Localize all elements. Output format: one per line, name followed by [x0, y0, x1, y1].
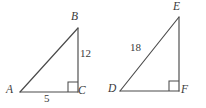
vertex-label-d: D: [108, 83, 116, 95]
triangles-svg: [0, 0, 206, 108]
side-length-label-ac: 5: [44, 93, 50, 104]
segment-de: [120, 17, 179, 91]
triangle-abc: [20, 28, 78, 92]
right-angle-mark-f: [169, 81, 179, 91]
vertex-label-a: A: [6, 84, 13, 96]
side-length-label-bc: 12: [80, 48, 91, 59]
vertex-label-c: C: [78, 85, 86, 97]
side-length-label-de: 18: [130, 42, 141, 53]
right-angle-mark-c: [68, 82, 78, 92]
vertex-label-f: F: [181, 84, 188, 96]
vertex-label-b: B: [71, 11, 78, 23]
triangle-def: [120, 17, 179, 91]
geometry-figure: A B C 5 12 D E F 18: [0, 0, 206, 108]
vertex-label-e: E: [173, 1, 180, 13]
